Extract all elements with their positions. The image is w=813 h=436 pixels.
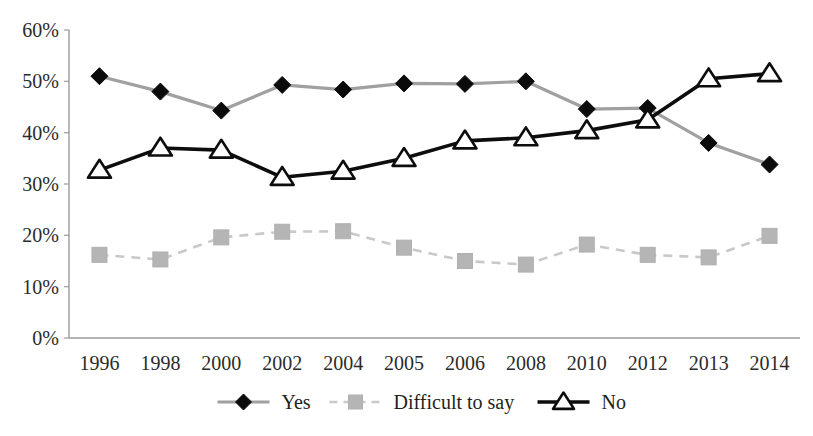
legend-diamond-icon: [236, 394, 252, 410]
chart-canvas: 0%10%20%30%40%50%60% 1996199820002002200…: [0, 0, 813, 436]
data-point-square: [275, 224, 290, 239]
series-difficult-to-say: [99, 231, 769, 264]
data-point-diamond: [335, 81, 352, 98]
data-point-square: [518, 257, 533, 272]
data-point-triangle: [758, 63, 781, 81]
data-point-diamond: [456, 75, 473, 92]
y-axis-tick-label: 40%: [22, 122, 59, 144]
data-point-square: [336, 224, 351, 239]
y-axis-tick-label: 30%: [22, 173, 59, 195]
x-axis-tick-label: 2010: [567, 352, 607, 374]
data-point-diamond: [91, 68, 108, 85]
data-point-diamond: [578, 101, 595, 118]
series-no: [99, 74, 769, 178]
y-axis-ticks: 0%10%20%30%40%50%60%: [22, 19, 69, 349]
data-point-diamond: [700, 134, 717, 151]
caption-ghost-text: [150, 418, 710, 432]
x-axis-tick-label: 2014: [750, 352, 790, 374]
data-point-square: [701, 250, 716, 265]
data-point-square: [153, 252, 168, 267]
x-axis-tick-label: 2012: [628, 352, 668, 374]
legend-item-yes[interactable]: Yes: [218, 391, 311, 413]
chart-legend: YesDifficult to sayNo: [218, 391, 626, 414]
x-axis-tick-label: 2002: [262, 352, 302, 374]
x-axis-tick-label: 2005: [384, 352, 424, 374]
legend-square-icon: [349, 395, 363, 409]
series-line: [99, 231, 769, 264]
y-axis-tick-label: 10%: [22, 276, 59, 298]
line-chart: 0%10%20%30%40%50%60% 1996199820002002200…: [0, 0, 813, 436]
data-point-square: [214, 230, 229, 245]
x-axis-tick-label: 2013: [689, 352, 729, 374]
legend-item-difficult-to-say[interactable]: Difficult to say: [330, 391, 515, 414]
data-point-diamond: [396, 75, 413, 92]
data-point-square: [579, 237, 594, 252]
x-axis-tick-label: 2004: [323, 352, 363, 374]
legend-item-label: Yes: [282, 391, 311, 413]
data-point-square: [762, 228, 777, 243]
x-axis-tick-label: 2000: [201, 352, 241, 374]
series-line: [99, 74, 769, 178]
y-axis-tick-label: 20%: [22, 224, 59, 246]
x-axis-ticks: 1996199820002002200420052006200820102012…: [79, 352, 789, 374]
data-point-square: [92, 247, 107, 262]
x-axis-tick-label: 2008: [506, 352, 546, 374]
data-point-square: [397, 240, 412, 255]
series-group: [88, 63, 781, 272]
legend-item-label: No: [602, 391, 626, 413]
data-point-diamond: [517, 73, 534, 90]
data-point-square: [457, 254, 472, 269]
x-axis-tick-label: 1998: [140, 352, 180, 374]
x-axis-tick-label: 2006: [445, 352, 485, 374]
y-axis-tick-label: 60%: [22, 19, 59, 41]
data-point-square: [640, 247, 655, 262]
legend-item-label: Difficult to say: [394, 391, 515, 414]
data-point-diamond: [274, 76, 291, 93]
data-point-diamond: [152, 83, 169, 100]
data-point-diamond: [213, 102, 230, 119]
y-axis-tick-label: 0%: [32, 327, 59, 349]
data-point-diamond: [761, 156, 778, 173]
x-axis-tick-label: 1996: [79, 352, 119, 374]
legend-item-no[interactable]: No: [538, 391, 626, 413]
y-axis-tick-label: 50%: [22, 70, 59, 92]
